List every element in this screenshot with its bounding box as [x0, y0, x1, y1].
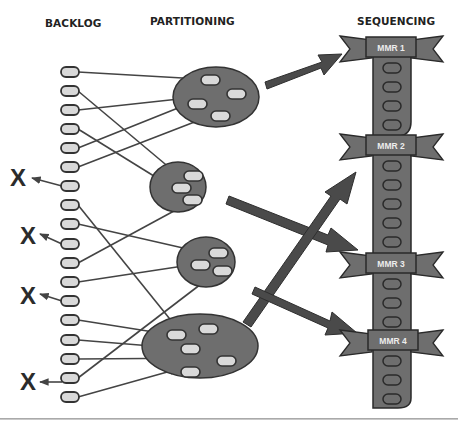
bottom-divider — [0, 418, 458, 420]
partition-2 — [150, 162, 206, 212]
discard-x-mark: X — [10, 166, 26, 190]
partition-3 — [177, 237, 235, 287]
release-label-3: MMR 3 — [377, 259, 405, 269]
release-label-2: MMR 2 — [377, 141, 405, 151]
backlog-items — [61, 67, 79, 402]
discard-arrows — [32, 178, 62, 382]
partition-4 — [142, 314, 258, 378]
sequencing-column — [373, 48, 411, 408]
partition-1 — [173, 67, 259, 127]
flow-diagram: MMR 1 MMR 2 MMR 3 MMR 4 — [0, 0, 458, 422]
discard-x-mark: X — [20, 224, 36, 248]
release-label-1: MMR 1 — [377, 43, 405, 53]
discard-x-mark: X — [20, 370, 36, 394]
release-label-4: MMR 4 — [379, 336, 407, 346]
discard-x-mark: X — [20, 284, 36, 308]
